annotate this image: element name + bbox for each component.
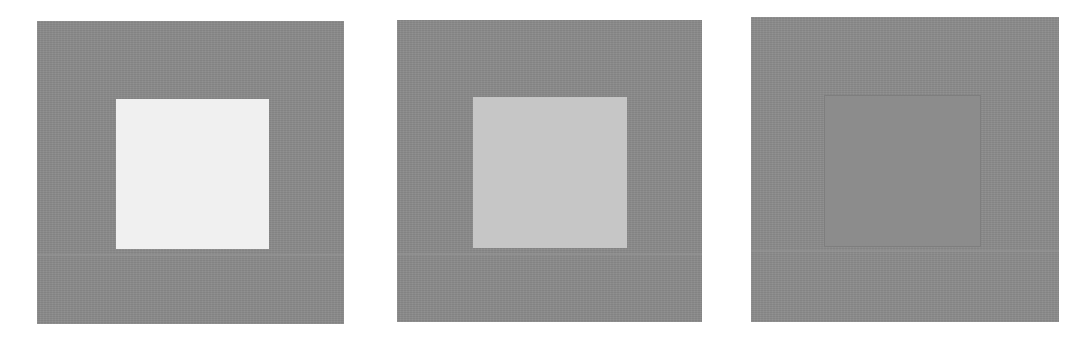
panel-1-inner-square-white xyxy=(116,99,269,249)
panel-3-inner-square-matching-gray xyxy=(824,95,981,247)
panel-2-inner-square-light-gray xyxy=(473,97,627,248)
panel-2-outer-square xyxy=(397,20,702,322)
panel-3-outer-square xyxy=(751,17,1059,322)
panel-1-outer-square xyxy=(37,21,344,324)
